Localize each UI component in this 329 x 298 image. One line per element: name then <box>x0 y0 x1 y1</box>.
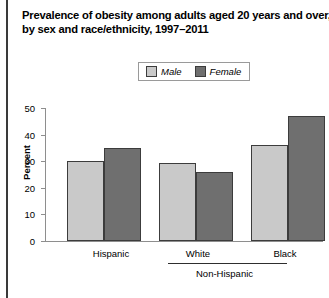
x-axis-line <box>45 241 323 242</box>
legend-item-female: Female <box>195 66 242 77</box>
bar-black-male <box>251 145 288 241</box>
legend-item-male: Male <box>146 66 182 77</box>
x-category-label-hispanic: Hispanic <box>76 249 146 259</box>
chart-figure: Prevalence of obesity among adults aged … <box>0 0 329 298</box>
y-tick-50: 50 <box>41 108 45 109</box>
y-tick-label-30: 30 <box>24 157 35 166</box>
x-category-label-black: Black <box>255 249 315 259</box>
legend-swatch-female-icon <box>195 66 206 77</box>
chart-title-line-1: Prevalence of obesity among adults aged … <box>22 8 322 22</box>
chart-title-line-2: by sex and race/ethnicity, 1997–2011 <box>22 22 322 36</box>
page-left-rule <box>6 0 8 298</box>
y-tick-40: 40 <box>41 135 45 136</box>
bar-hispanic-male <box>67 161 104 241</box>
non-hispanic-bracket-label: Non-Hispanic <box>196 268 253 279</box>
bar-black-female <box>288 116 325 241</box>
chart-legend: Male Female <box>138 62 250 81</box>
bar-white-male <box>159 163 196 241</box>
y-tick-label-10: 10 <box>24 210 35 219</box>
y-tick-20: 20 <box>41 188 45 189</box>
y-tick-label-50: 50 <box>24 104 35 113</box>
legend-label-male: Male <box>161 67 182 76</box>
legend-swatch-male-icon <box>146 66 157 77</box>
y-tick-label-40: 40 <box>24 131 35 140</box>
plot-area: Percent 0 10 20 30 40 50 <box>45 105 323 245</box>
bar-white-female <box>196 172 233 241</box>
y-tick-10: 10 <box>41 214 45 215</box>
legend-label-female: Female <box>210 67 242 76</box>
chart-title: Prevalence of obesity among adults aged … <box>22 8 322 36</box>
footer-note <box>24 290 324 297</box>
y-tick-label-20: 20 <box>24 184 35 193</box>
bar-hispanic-female <box>104 148 141 241</box>
y-tick-30: 30 <box>41 161 45 162</box>
y-tick-0: 0 <box>41 241 45 242</box>
y-tick-label-0: 0 <box>30 237 35 246</box>
non-hispanic-bracket-line <box>168 263 287 264</box>
bar-series-container <box>46 108 323 241</box>
x-category-label-white: White <box>168 249 228 259</box>
